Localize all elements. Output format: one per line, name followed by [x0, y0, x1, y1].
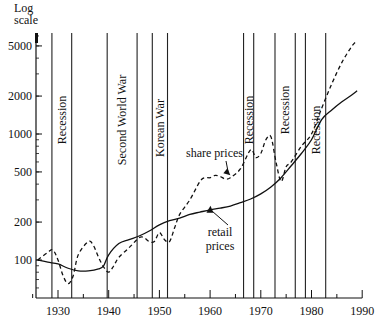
- line-chart: 1002005001000200050001930194019501960197…: [0, 0, 384, 322]
- period-label: Korean War: [153, 99, 167, 157]
- x-tick-label: 1960: [198, 304, 222, 318]
- y-axis-cap: [35, 33, 38, 43]
- x-tick-label: 1950: [147, 304, 171, 318]
- y-tick-label: 1000: [8, 127, 32, 141]
- retail-prices-label-line2: prices: [206, 239, 235, 253]
- period-label: Second World War: [115, 75, 129, 165]
- x-tick-label: 1940: [97, 304, 121, 318]
- retail-prices-label-line1: retail: [208, 225, 233, 239]
- period-label: Recession: [55, 96, 69, 145]
- share-prices-line: [38, 41, 357, 284]
- y-tick-label: 2000: [8, 89, 32, 103]
- y-tick-label: 500: [14, 165, 32, 179]
- x-tick-label: 1990: [350, 304, 374, 318]
- period-label: Recession: [278, 86, 292, 135]
- period-label: Recession: [242, 96, 256, 145]
- annotation-labels: RecessionSecond World WarKorean WarReces…: [55, 75, 323, 253]
- arrowhead-icon: [223, 168, 230, 175]
- share-prices-label: share prices: [186, 146, 243, 160]
- x-tick-label: 1980: [300, 304, 324, 318]
- series-lines: [38, 41, 357, 284]
- x-tick-label: 1970: [249, 304, 273, 318]
- x-tick-label: 1930: [46, 304, 70, 318]
- event-periods: [52, 33, 326, 298]
- y-tick-label: 100: [14, 253, 32, 267]
- y-tick-label: 200: [14, 215, 32, 229]
- period-label: Recession: [309, 106, 323, 155]
- y-tick-label: 5000: [8, 39, 32, 53]
